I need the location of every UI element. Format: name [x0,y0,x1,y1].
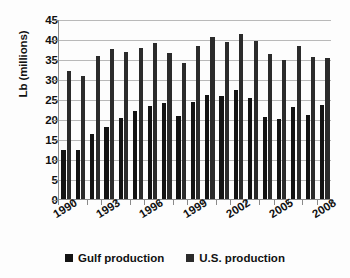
legend-entry: Gulf production [65,252,164,264]
plot-area [58,20,331,200]
bar-gulf-production [219,96,223,199]
bar-group [73,20,87,199]
x-tick-mark [302,200,303,205]
bar-gulf-production [76,150,80,199]
x-tick-mark [130,200,131,205]
bar-group [217,20,231,199]
bar-group [102,20,116,199]
legend-label: U.S. production [199,252,285,264]
bar-gulf-production [263,117,267,199]
bar-group [289,20,303,199]
bar-us-production [268,54,272,199]
bar-group [116,20,130,199]
bar-us-production [139,48,143,199]
bar-gulf-production [320,105,324,199]
bar-group [246,20,260,199]
x-tick-mark [173,200,174,205]
bar-us-production [153,43,157,199]
legend-swatch-icon [186,254,194,262]
bar-group [131,20,145,199]
bar-gulf-production [61,150,65,199]
bar-group [145,20,159,199]
legend-label: Gulf production [78,252,164,264]
bar-us-production [167,53,171,199]
bar-us-production [67,71,71,199]
bar-gulf-production [291,107,295,199]
bar-us-production [182,63,186,199]
x-tick-mark [87,200,88,205]
bar-us-production [225,42,229,199]
bar-group [303,20,317,199]
bar-group [174,20,188,199]
bar-gulf-production [119,118,123,199]
bar-us-production [311,57,315,199]
bar-group [88,20,102,199]
legend-entry: U.S. production [186,252,285,264]
bar-gulf-production [104,127,108,199]
bar-group [231,20,245,199]
bar-chart: Lb (millions) 051015202530354045 1990199… [0,0,350,278]
bar-group [160,20,174,199]
bar-gulf-production [277,119,281,199]
bar-group [59,20,73,199]
x-tick-mark [259,200,260,205]
x-axis-labels: 1990199319961999200220052008 [58,206,331,246]
bar-us-production [325,58,329,199]
y-axis-ticks: 051015202530354045 [0,20,58,200]
bar-gulf-production [176,116,180,199]
chart-legend: Gulf productionU.S. production [0,252,350,264]
bar-gulf-production [234,90,238,199]
bar-us-production [81,76,85,199]
bar-us-production [96,56,100,199]
legend-swatch-icon [65,254,73,262]
bar-us-production [282,60,286,199]
bar-us-production [254,41,258,199]
bar-gulf-production [162,103,166,199]
bar-us-production [196,46,200,199]
bar-gulf-production [191,102,195,199]
bar-us-production [110,49,114,199]
bar-gulf-production [133,111,137,199]
x-tick-mark [216,200,217,205]
bar-group [260,20,274,199]
bar-us-production [124,52,128,199]
bar-gulf-production [148,106,152,199]
bar-group [188,20,202,199]
bar-gulf-production [306,115,310,199]
bar-gulf-production [205,95,209,199]
bar-us-production [297,46,301,199]
bar-us-production [210,37,214,199]
bar-us-production [239,34,243,199]
bar-gulf-production [90,134,94,199]
bar-group [275,20,289,199]
bar-gulf-production [248,98,252,199]
bar-group [203,20,217,199]
bars-layer [59,20,331,199]
bar-group [318,20,332,199]
